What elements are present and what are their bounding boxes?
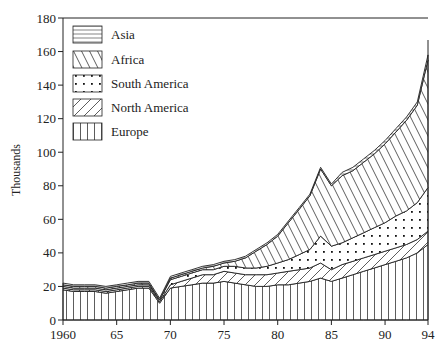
y-axis-title: Thousands <box>9 144 23 196</box>
y-tick-label: 180 <box>37 11 57 26</box>
x-tick-label: 85 <box>325 327 338 342</box>
legend-item-europe: Europe <box>73 123 149 140</box>
y-ticks: 020406080100120140160180 <box>37 11 64 328</box>
x-tick-label: 94 <box>422 327 436 342</box>
legend-item-south-america: South America <box>73 75 189 92</box>
legend: Asia Africa South America North America … <box>73 26 189 140</box>
x-tick-label: 90 <box>379 327 392 342</box>
stacked-area-chart: 020406080100120140160180 196065707580859… <box>0 0 446 349</box>
y-tick-label: 100 <box>37 145 57 160</box>
y-tick-label: 20 <box>43 279 56 294</box>
legend-item-asia: Asia <box>73 26 135 43</box>
legend-label-asia: Asia <box>111 27 135 42</box>
legend-label-europe: Europe <box>111 124 149 139</box>
legend-label-north-america: North America <box>111 100 189 115</box>
legend-item-africa: Africa <box>73 51 144 68</box>
y-tick-label: 40 <box>43 245 56 260</box>
y-tick-label: 60 <box>43 212 56 227</box>
y-tick-label: 160 <box>37 44 57 59</box>
legend-swatch-europe <box>73 123 102 140</box>
legend-swatch-africa <box>73 51 102 68</box>
legend-label-south-america: South America <box>111 76 189 91</box>
area-layers <box>63 55 428 320</box>
x-tick-label: 70 <box>164 327 177 342</box>
x-tick-label: 80 <box>271 327 284 342</box>
y-tick-label: 0 <box>50 313 57 328</box>
legend-swatch-north-america <box>73 99 102 116</box>
x-tick-label: 1960 <box>50 327 76 342</box>
x-tick-label: 75 <box>218 327 231 342</box>
legend-item-north-america: North America <box>73 99 189 116</box>
y-tick-label: 80 <box>43 178 56 193</box>
legend-swatch-asia <box>73 26 102 43</box>
x-tick-label: 65 <box>110 327 123 342</box>
y-tick-label: 140 <box>37 78 57 93</box>
legend-label-africa: Africa <box>111 52 144 67</box>
x-ticks: 196065707580859094 <box>50 320 435 342</box>
y-tick-label: 120 <box>37 111 57 126</box>
legend-swatch-south-america <box>73 75 102 92</box>
